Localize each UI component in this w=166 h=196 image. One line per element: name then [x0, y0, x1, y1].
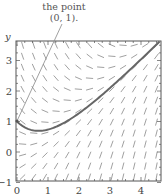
slope-segment	[75, 89, 82, 90]
slope-segment	[43, 75, 47, 81]
slope-segment	[19, 132, 26, 135]
slope-segment	[122, 130, 124, 137]
slope-segment	[132, 75, 136, 81]
slope-segment	[42, 98, 48, 102]
slope-segment	[99, 108, 103, 114]
slope-segment	[97, 55, 104, 58]
slope-segment	[110, 119, 113, 125]
slope-segment	[145, 152, 147, 159]
slope-segment	[155, 75, 158, 81]
slope-segment	[31, 97, 36, 102]
slope-segment	[32, 64, 35, 71]
slope-segment	[76, 120, 81, 125]
slope-segment	[109, 44, 116, 47]
slope-segment	[133, 163, 135, 170]
slope-segment	[120, 55, 127, 57]
slope-segment	[66, 174, 69, 181]
slope-segment	[133, 130, 135, 137]
slope-segment	[100, 174, 102, 181]
y-axis-label: y	[4, 31, 11, 42]
slope-segment	[122, 141, 124, 148]
slope-segment	[111, 141, 113, 148]
slope-segment	[65, 53, 69, 59]
annotation-line1: the point	[42, 1, 86, 12]
slope-segment	[44, 42, 47, 49]
slope-segment	[65, 152, 69, 158]
slope-segment	[88, 152, 91, 159]
slope-segment	[64, 110, 71, 112]
slope-segment	[133, 152, 135, 159]
slope-segment	[76, 54, 81, 59]
slope-segment	[109, 76, 115, 80]
slope-segment	[53, 121, 60, 123]
slope-segment	[121, 86, 125, 92]
annotation-pointer-line	[17, 24, 62, 121]
slope-segment	[86, 78, 93, 79]
slope-segment	[76, 42, 80, 48]
slope-segment	[32, 53, 35, 60]
slope-segment	[99, 119, 103, 125]
slope-segment	[155, 97, 157, 104]
slope-segment	[30, 133, 37, 134]
slope-field-chart: the point (0, 1). y 3 2 1 0 −1 0 1 2 3 4	[0, 0, 166, 196]
slope-segment	[75, 77, 82, 80]
slope-segment	[54, 75, 59, 80]
slope-segment	[132, 86, 136, 92]
annotation-line2: (0, 1).	[50, 12, 79, 23]
slope-segment	[65, 65, 70, 70]
slope-segment	[21, 75, 24, 82]
slope-segment	[144, 108, 146, 115]
slope-segment	[110, 130, 113, 137]
slope-segment	[144, 86, 147, 92]
slope-segment	[111, 174, 113, 181]
slope-segment	[86, 66, 93, 69]
slope-segment	[131, 54, 137, 58]
slope-segment	[145, 173, 146, 180]
slope-segment	[41, 132, 48, 134]
slope-segment	[64, 88, 71, 91]
slope-segment	[133, 141, 135, 148]
slope-segment	[21, 97, 25, 103]
slope-segment	[99, 152, 101, 159]
slope-segment	[108, 66, 115, 68]
slope-segment	[87, 119, 91, 125]
slope-segment	[20, 174, 25, 179]
slope-segment	[76, 65, 82, 69]
slope-segment	[53, 87, 59, 91]
slope-segment	[76, 130, 80, 136]
slope-segment	[21, 86, 24, 92]
slope-segment	[119, 45, 126, 46]
slope-segment	[54, 163, 58, 169]
slope-segment	[66, 42, 69, 48]
slope-segment	[133, 97, 136, 103]
slope-segment	[131, 44, 138, 46]
slope-segment	[87, 109, 92, 114]
slope-segment	[75, 99, 82, 101]
slope-segment	[154, 53, 158, 59]
slope-segment	[43, 64, 46, 70]
slope-segment	[111, 163, 113, 170]
initial-point-marker	[15, 119, 18, 122]
slope-segment	[31, 164, 36, 169]
slope-segment	[88, 163, 90, 170]
slope-segment	[21, 64, 24, 71]
slope-segment	[53, 99, 60, 102]
slope-segment	[121, 108, 124, 114]
x-tick-1: 1	[45, 185, 51, 196]
x-tick-0: 0	[14, 185, 20, 196]
slope-segment	[99, 141, 102, 148]
slope-segment	[142, 43, 148, 47]
slope-segment	[156, 130, 158, 137]
slope-segment	[133, 108, 136, 115]
y-tick-0: 0	[6, 147, 12, 158]
slope-segment	[99, 130, 102, 136]
slope-segment	[53, 142, 58, 147]
slope-segment	[155, 86, 158, 93]
slope-segment	[77, 141, 81, 147]
slope-segment	[42, 110, 49, 113]
slope-segment	[77, 163, 80, 170]
slope-segment	[86, 88, 93, 90]
slope-segment	[100, 163, 102, 170]
y-tick-neg1: −1	[0, 177, 12, 188]
slope-segment	[110, 108, 114, 114]
